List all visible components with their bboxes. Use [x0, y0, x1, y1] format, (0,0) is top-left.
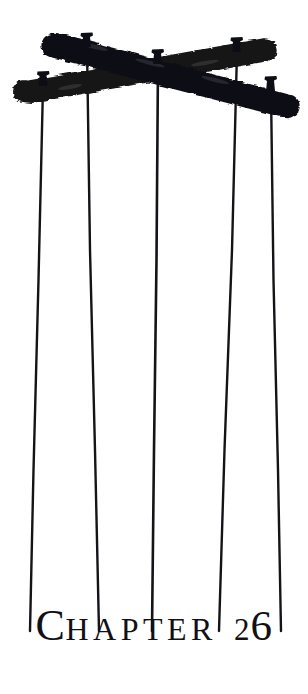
chapter-number-second-digit: 6 [250, 602, 272, 649]
chapter-word-remainder: HAPTER [65, 611, 216, 647]
chapter-opener-page: CHAPTER26 [0, 0, 308, 694]
crossed-beams-illustration [0, 0, 308, 694]
chapter-heading: CHAPTER26 [0, 604, 308, 662]
chapter-number-first-digit: 2 [234, 612, 251, 647]
chapter-drop-cap: C [36, 601, 66, 650]
chapter-word: CHAPTER [36, 604, 217, 648]
chapter-number: 26 [234, 604, 273, 647]
